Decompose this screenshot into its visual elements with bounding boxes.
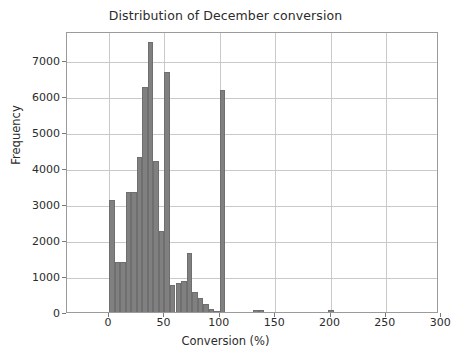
x-axis-tick-label: 250: [374, 316, 395, 329]
histogram-bar: [164, 72, 170, 312]
x-axis-label: Conversion (%): [0, 334, 451, 348]
histogram-bar: [259, 310, 265, 312]
plot-area: [66, 32, 438, 313]
x-axis-tick-label: 100: [208, 316, 229, 329]
histogram-bars: [67, 33, 437, 312]
histogram-bar: [328, 310, 334, 312]
x-axis-tick-label: 150: [264, 316, 285, 329]
x-axis-tick-label: 300: [430, 316, 451, 329]
y-axis-tick-marks: [0, 32, 70, 313]
x-axis-tick-label: 50: [156, 316, 170, 329]
x-axis-tick-label: 0: [105, 316, 112, 329]
histogram-bar: [220, 90, 226, 312]
x-axis-tick-labels: 050100150200250300: [66, 316, 438, 334]
chart-title: Distribution of December conversion: [0, 8, 451, 23]
chart-figure: Distribution of December conversion Freq…: [0, 0, 451, 363]
x-axis-tick-label: 200: [319, 316, 340, 329]
